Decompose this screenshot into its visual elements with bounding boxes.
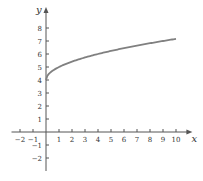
x-tick-label: 6 — [122, 136, 127, 144]
x-tick-label: 10 — [172, 136, 181, 144]
y-tick-label: 6 — [38, 51, 43, 59]
chart-canvas: −2−112345678910−2−112345678 x y — [0, 0, 203, 181]
y-tick-label: −1 — [32, 142, 42, 150]
y-tick-label: 7 — [38, 38, 42, 46]
x-tick-label: 3 — [83, 136, 87, 144]
ticks: −2−112345678910−2−112345678 — [15, 25, 181, 163]
y-axis-arrow-icon — [44, 7, 49, 13]
x-tick-label: 9 — [161, 136, 165, 144]
y-tick-label: −2 — [32, 155, 42, 163]
y-tick-label: 3 — [38, 90, 42, 98]
x-tick-label: 2 — [70, 136, 74, 144]
y-tick-label: 2 — [38, 103, 42, 111]
x-axis-label: x — [191, 133, 197, 144]
function-curve — [46, 39, 176, 80]
x-tick-label: 7 — [135, 136, 139, 144]
y-tick-label: 4 — [38, 77, 43, 85]
x-tick-label: 4 — [96, 136, 101, 144]
y-tick-label: 5 — [38, 64, 42, 72]
x-tick-label: −2 — [15, 136, 25, 144]
y-axis-label: y — [35, 4, 42, 15]
y-tick-label: 1 — [38, 116, 42, 124]
x-tick-label: 1 — [57, 136, 61, 144]
y-tick-label: 8 — [38, 25, 42, 33]
x-tick-label: 5 — [109, 136, 113, 144]
x-tick-label: 8 — [148, 136, 152, 144]
